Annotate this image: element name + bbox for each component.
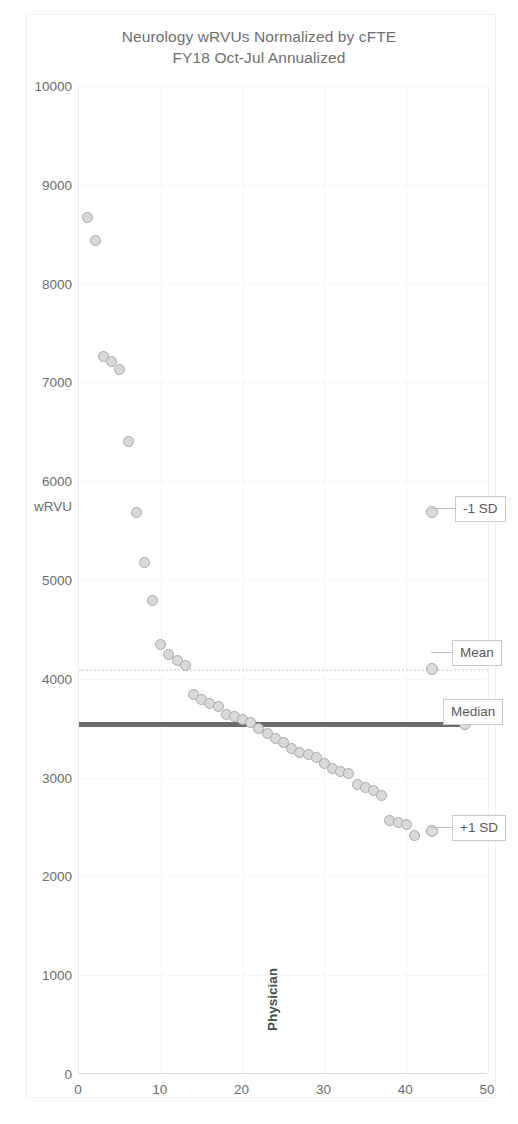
gridline-horizontal	[79, 481, 487, 482]
gridline-horizontal	[79, 382, 487, 383]
x-axis-tick-labels: 01020304050	[78, 1082, 487, 1104]
data-point	[131, 507, 142, 518]
data-point	[123, 436, 134, 447]
data-point	[155, 639, 166, 650]
x-axis-tick-label: 50	[479, 1082, 494, 1097]
callout-1-sd[interactable]: +1 SD	[452, 815, 506, 841]
gridline-horizontal	[79, 86, 487, 87]
callout-1-sd[interactable]: -1 SD	[455, 496, 506, 522]
callout-leader-line	[431, 827, 452, 828]
gridline-horizontal	[79, 876, 487, 877]
gridline-horizontal	[79, 580, 487, 581]
x-axis-tick-label: 0	[74, 1082, 82, 1097]
data-point	[114, 364, 125, 375]
data-point	[401, 819, 412, 830]
x-axis-tick-label: 40	[398, 1082, 413, 1097]
callout-mean[interactable]: Mean	[452, 640, 502, 666]
gridline-horizontal	[79, 679, 487, 680]
callout-median[interactable]: Median	[443, 699, 503, 725]
data-point	[147, 595, 158, 606]
gridline-vertical	[488, 86, 489, 1073]
y-axis-title: wRVU	[10, 499, 72, 514]
data-point	[90, 235, 101, 246]
gridline-horizontal	[79, 778, 487, 779]
x-axis-tick-label: 20	[234, 1082, 249, 1097]
data-point	[409, 830, 420, 841]
data-point	[82, 212, 93, 223]
gridline-horizontal	[79, 975, 487, 976]
data-point	[139, 557, 150, 568]
callout-leader-line	[431, 652, 452, 653]
x-axis-tick-label: 10	[152, 1082, 167, 1097]
data-point	[376, 790, 387, 801]
callout-leader-line	[431, 508, 455, 509]
y-axis-title-wrap: wRVU	[10, 86, 72, 1074]
chart-container: Neurology wRVUs Normalized by cFTE FY18 …	[0, 0, 518, 1124]
reference-line-marker	[426, 663, 438, 675]
gridline-horizontal	[79, 284, 487, 285]
gridline-horizontal	[79, 185, 487, 186]
x-axis-tick-label: 30	[316, 1082, 331, 1097]
median-reference-line	[79, 722, 465, 727]
plot-area	[78, 86, 487, 1074]
